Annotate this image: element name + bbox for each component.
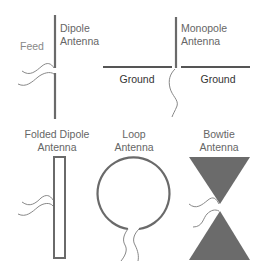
loop-label: Loop Antenna: [114, 128, 153, 153]
ground-right-label: Ground: [200, 73, 235, 86]
dipole-label: Dipole Antenna: [60, 22, 99, 47]
bowtie-feed-upper: [189, 198, 219, 207]
bowtie-antenna: [189, 157, 250, 260]
loop-antenna: [98, 157, 170, 261]
monopole-label-line2: Antenna: [181, 35, 227, 48]
monopole-feed: [169, 69, 177, 117]
bowtie-lower-triangle: [189, 211, 250, 260]
dipole-feed-upper: [22, 64, 54, 74]
dipole-antenna: [18, 15, 55, 119]
monopole-label-line1: Monopole: [181, 22, 227, 35]
bowtie-label-line2: Antenna: [199, 141, 238, 154]
loop-feed-left: [121, 229, 128, 261]
bowtie-upper-triangle: [189, 157, 250, 204]
folded-dipole-label-line1: Folded Dipole: [25, 128, 90, 141]
loop-label-line2: Antenna: [114, 141, 153, 154]
bowtie-label: Bowtie Antenna: [199, 128, 238, 153]
loop-label-line1: Loop: [114, 128, 153, 141]
loop-element: [98, 157, 170, 229]
monopole-label: Monopole Antenna: [181, 22, 227, 47]
folded-dipole-element: [54, 157, 65, 258]
dipole-label-line2: Antenna: [60, 35, 99, 48]
loop-feed-right: [134, 229, 139, 261]
monopole-antenna: [103, 17, 250, 117]
folded-dipole-antenna: [18, 157, 65, 258]
dipole-feed-lower: [18, 73, 54, 86]
dipole-label-line1: Dipole: [60, 22, 99, 35]
feed-label: Feed: [20, 40, 44, 53]
bowtie-label-line1: Bowtie: [199, 128, 238, 141]
folded-dipole-label: Folded Dipole Antenna: [25, 128, 90, 153]
ground-left-label: Ground: [119, 73, 154, 86]
folded-dipole-feed-lower: [18, 203, 53, 215]
folded-dipole-label-line2: Antenna: [25, 141, 90, 154]
